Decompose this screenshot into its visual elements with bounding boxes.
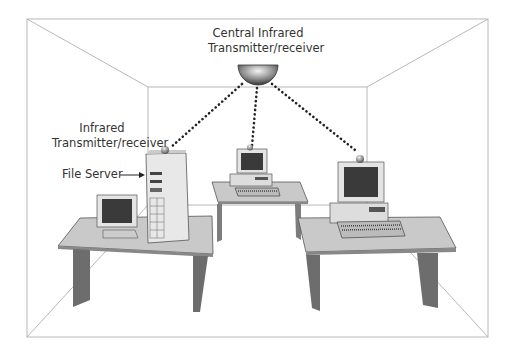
file-server-arrow (120, 172, 145, 178)
central-label-line1: Central Infrared (208, 26, 308, 41)
infrared-links (170, 84, 355, 150)
central-transceiver-label: Central Infrared Transmitter/receiver (208, 26, 308, 56)
local-label-line1: Infrared (52, 121, 152, 136)
file-server-label: File Server (62, 167, 123, 182)
local-transceiver-label: Infrared Transmitter/receiver (52, 121, 152, 151)
left-monitor-icon (97, 195, 138, 238)
local-label-line2: Transmitter/receiver (52, 136, 152, 151)
workstation-back-icon (230, 145, 280, 197)
workstation-right-icon (330, 155, 405, 238)
central-transceiver-icon (238, 65, 278, 85)
central-label-line2: Transmitter/receiver (208, 41, 308, 56)
left-desk (58, 216, 213, 312)
file-server-icon (146, 146, 189, 243)
